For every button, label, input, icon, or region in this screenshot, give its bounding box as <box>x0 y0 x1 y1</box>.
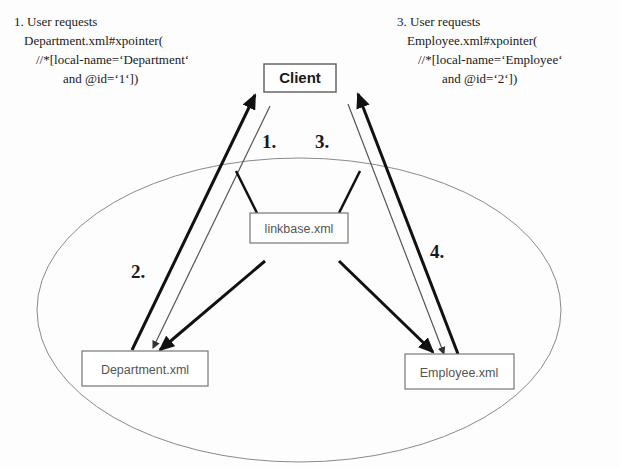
annotation-left-line4: and @id=‘1‘]) <box>63 71 138 86</box>
annotation-right: 3. User requests Employee.xml#xpointer( … <box>397 14 563 86</box>
annotation-right-line4: and @id=‘2‘]) <box>442 71 517 86</box>
step-1-label: 1. <box>262 131 276 152</box>
step-2-label: 2. <box>131 261 145 282</box>
annotation-right-line1: 3. User requests <box>397 14 480 29</box>
arrow-step4-employee-to-client <box>358 94 458 354</box>
annotation-left-line3: //*[local-name=‘Department‘ <box>36 52 189 67</box>
annotation-right-line3: //*[local-name=‘Employee‘ <box>418 52 563 67</box>
step-4-label: 4. <box>430 241 444 262</box>
annotation-right-line2: Employee.xml#xpointer( <box>407 33 537 48</box>
annotation-left-line2: Department.xml#xpointer( <box>24 33 163 48</box>
link-left-branch-to-linkbase <box>236 171 257 213</box>
arrow-step2-department-to-client <box>132 95 255 350</box>
linkbase-label: linkbase.xml <box>265 222 334 236</box>
diagram-canvas: Client linkbase.xml Department.xml Emplo… <box>0 0 620 467</box>
server-boundary-ellipse <box>37 158 561 462</box>
department-label: Department.xml <box>101 363 189 377</box>
annotation-left: 1. User requests Department.xml#xpointer… <box>14 14 189 86</box>
linkbase-node: linkbase.xml <box>250 213 348 243</box>
department-node: Department.xml <box>82 351 208 386</box>
step-3-label: 3. <box>315 131 329 152</box>
arrow-linkbase-to-employee <box>339 261 433 352</box>
client-node: Client <box>264 64 336 92</box>
annotation-left-line1: 1. User requests <box>14 14 97 29</box>
client-label: Client <box>279 69 321 86</box>
link-right-branch-to-linkbase <box>339 171 360 213</box>
diagram-svg: Client linkbase.xml Department.xml Emplo… <box>0 0 620 467</box>
employee-node: Employee.xml <box>405 354 514 389</box>
arrow-linkbase-to-department <box>160 261 265 350</box>
employee-label: Employee.xml <box>420 366 499 380</box>
